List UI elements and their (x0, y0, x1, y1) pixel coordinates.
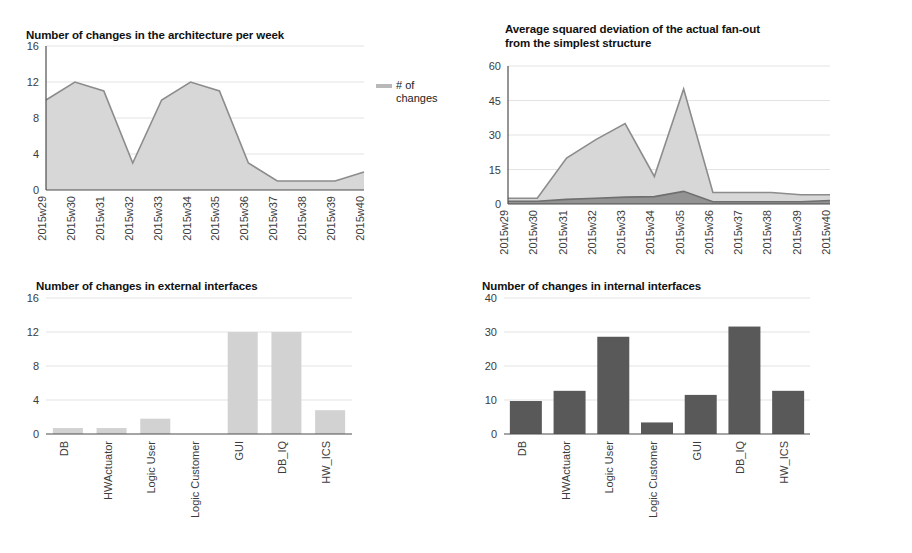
x-axis-tick-label: HWActuator (560, 441, 572, 500)
bar[interactable] (641, 422, 673, 434)
x-axis-tick-label: 2015w36 (238, 196, 250, 241)
x-axis-tick-label: 2015w37 (732, 210, 744, 255)
area-series-fill (508, 89, 830, 204)
chart-panel-architecture-changes: Number of changes in the architecture pe… (0, 14, 460, 276)
y-axis-tick-label: 20 (485, 360, 497, 372)
x-axis-tick-label: Logic Customer (647, 441, 659, 518)
plot-area-fanout-deviation: 0153045602015w292015w302015w312015w32201… (460, 58, 912, 273)
x-axis-tick-label: 2015w40 (820, 210, 832, 255)
x-axis-tick-label: 2015w36 (703, 210, 715, 255)
legend-item-label: # of changes (396, 79, 438, 105)
x-axis-tick-label: 2015w30 (65, 196, 77, 241)
x-axis-tick-label: DB (516, 441, 528, 456)
x-axis-tick-label: 2015w34 (644, 210, 656, 255)
x-axis-tick-label: 2015w39 (791, 210, 803, 255)
y-axis-tick-label: 12 (27, 326, 39, 338)
x-axis-tick-label: 2015w32 (123, 196, 135, 241)
x-axis-tick-label: 2015w37 (267, 196, 279, 241)
x-axis-tick-label: 2015w38 (761, 210, 773, 255)
y-axis-tick-label: 40 (485, 292, 497, 304)
x-axis-tick-label: 2015w34 (181, 196, 193, 241)
y-axis-tick-label: 0 (491, 428, 497, 440)
x-axis-tick-label: 2015w31 (557, 210, 569, 255)
y-axis-tick-label: 8 (33, 112, 39, 124)
x-axis-tick-label: 2015w29 (36, 196, 48, 241)
plot-area-internal-interfaces: 010203040DBHWActuatorLogic UserLogic Cus… (460, 292, 912, 552)
bar[interactable] (510, 401, 542, 434)
x-axis-tick-label: HW_ICS (778, 441, 790, 484)
x-axis-tick-label: DB_IQ (276, 441, 288, 474)
x-axis-tick-label: HW_ICS (320, 441, 332, 484)
y-axis-tick-label: 8 (33, 360, 39, 372)
x-axis-tick-label: Logic Customer (189, 441, 201, 518)
y-axis-tick-label: 16 (27, 40, 39, 52)
y-axis-tick-label: 60 (489, 60, 501, 72)
y-axis-tick-label: 15 (489, 164, 501, 176)
x-axis-tick-label: 2015w39 (325, 196, 337, 241)
bar-chart-internal-interfaces: 010203040DBHWActuatorLogic UserLogic Cus… (460, 292, 912, 552)
y-axis-tick-label: 16 (27, 292, 39, 304)
chart-title-internal-interfaces: Number of changes in internal interfaces (482, 279, 812, 293)
x-axis-tick-label: 2015w33 (152, 196, 164, 241)
x-axis-tick-label: 2015w35 (209, 196, 221, 241)
y-axis-tick-label: 0 (495, 198, 501, 210)
x-axis-tick-label: 2015w33 (615, 210, 627, 255)
y-axis-tick-label: 12 (27, 76, 39, 88)
x-axis-tick-label: 2015w38 (296, 196, 308, 241)
x-axis-tick-label: Logic User (145, 441, 157, 494)
area-chart-architecture-changes: 04812162015w292015w302015w312015w322015w… (0, 38, 460, 268)
y-axis-tick-label: 4 (33, 148, 39, 160)
bar[interactable] (728, 327, 760, 434)
legend-item[interactable]: # of changes (376, 79, 460, 105)
y-axis-tick-label: 10 (485, 394, 497, 406)
x-axis-tick-label: 2015w31 (94, 196, 106, 241)
x-axis-tick-label: GUI (233, 441, 245, 461)
bar[interactable] (685, 395, 717, 434)
legend-swatch-icon (376, 84, 392, 88)
bar[interactable] (271, 332, 301, 434)
y-axis-tick-label: 45 (489, 95, 501, 107)
area-chart-fanout-deviation: 0153045602015w292015w302015w312015w32201… (460, 58, 912, 273)
x-axis-tick-label: 2015w29 (498, 210, 510, 255)
x-axis-tick-label: GUI (691, 441, 703, 461)
bar[interactable] (53, 428, 83, 434)
x-axis-tick-label: HWActuator (102, 441, 114, 500)
chart-title-external-interfaces: Number of changes in external interfaces (36, 279, 366, 293)
chart-panel-internal-interfaces: Number of changes in internal interfaces… (460, 276, 912, 553)
bar[interactable] (554, 391, 586, 434)
y-axis-tick-label: 4 (33, 394, 39, 406)
area-series-fill (46, 82, 364, 190)
bar[interactable] (597, 337, 629, 434)
bar[interactable] (228, 332, 258, 434)
x-axis-tick-label: 2015w40 (354, 196, 366, 241)
bar[interactable] (140, 419, 170, 434)
y-axis-tick-label: 30 (489, 129, 501, 141)
bar[interactable] (772, 391, 804, 434)
x-axis-tick-label: DB_IQ (734, 441, 746, 474)
y-axis-tick-label: 0 (33, 184, 39, 196)
bar[interactable] (97, 428, 127, 434)
x-axis-tick-label: DB (58, 441, 70, 456)
chart-panel-fanout-deviation: Average squared deviation of the actual … (460, 6, 912, 276)
x-axis-tick-label: 2015w30 (527, 210, 539, 255)
plot-area-architecture-changes: 04812162015w292015w302015w312015w322015w… (0, 38, 460, 268)
charts-dashboard: Number of changes in the architecture pe… (0, 0, 912, 553)
plot-area-external-interfaces: 0481216DBHWActuatorLogic UserLogic Custo… (0, 292, 460, 552)
x-axis-tick-label: Logic User (603, 441, 615, 494)
chart-panel-external-interfaces: Number of changes in external interfaces… (0, 276, 460, 553)
y-axis-tick-label: 30 (485, 326, 497, 338)
legend-architecture-changes: # of changes (376, 79, 460, 106)
x-axis-tick-label: 2015w35 (674, 210, 686, 255)
y-axis-tick-label: 0 (33, 428, 39, 440)
bar-chart-external-interfaces: 0481216DBHWActuatorLogic UserLogic Custo… (0, 292, 460, 552)
bar[interactable] (315, 410, 345, 434)
x-axis-tick-label: 2015w32 (586, 210, 598, 255)
chart-title-fanout-deviation: Average squared deviation of the actual … (505, 22, 825, 50)
